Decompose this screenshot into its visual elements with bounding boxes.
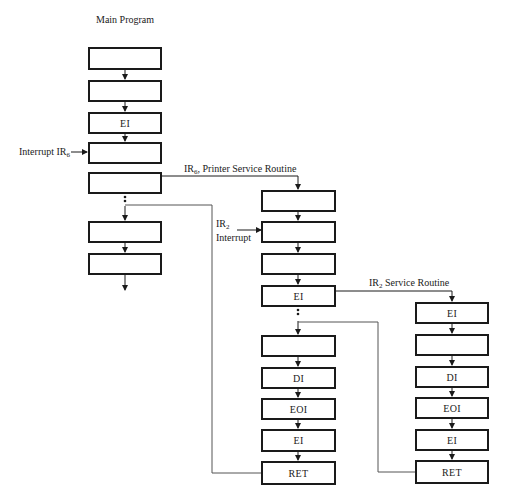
interrupt-ir6-text: Interrupt IR [19,146,67,157]
printer-step-1 [261,190,336,212]
ir2-routine-label: IR2 Service Routine [369,277,449,292]
printer-step-ei-2: EI [261,429,336,452]
printer-step-interrupted [261,221,336,243]
ir2-interrupt-subscript: 2 [226,223,230,231]
ir2-interrupt-prefix: IR [216,218,226,229]
printer-step-ret: RET [261,461,336,485]
ir2-routine-name: Service Routine [383,277,450,288]
ir2-step-2 [415,334,489,356]
printer-step-3 [261,253,336,275]
ir2-step-ei: EI [415,302,489,324]
ir2-interrupt-word: Interrupt [216,232,251,244]
main-step-5 [88,172,162,194]
main-step-1 [88,47,162,70]
main-step-7 [88,253,162,275]
ir2-step-eoi: EOI [415,397,489,419]
printer-step-di: DI [261,367,336,389]
ir2-step-di: DI [415,366,489,388]
printer-step-eoi: EOI [261,398,336,420]
main-step-ei: EI [88,112,162,134]
printer-step-5 [261,335,336,357]
main-step-interrupted [88,142,162,164]
main-program-title: Main Program [96,14,154,26]
main-step-6 [88,221,162,243]
ir2-routine-prefix: IR [369,277,379,288]
ir2-step-ei-2: EI [415,429,489,451]
ir6-routine-prefix: IR [184,163,194,174]
printer-step-ei: EI [261,285,336,307]
ir6-routine-name: , Printer Service Routine [198,163,297,174]
ir2-interrupt-label: IR2 [216,218,230,233]
ir2-step-ret: RET [415,460,489,484]
main-step-2 [88,80,162,102]
ir6-routine-label: IR6, Printer Service Routine [184,163,296,178]
interrupt-ir6-label: Interrupt IR6 [19,146,70,161]
interrupt-ir6-subscript: 6 [67,151,71,159]
